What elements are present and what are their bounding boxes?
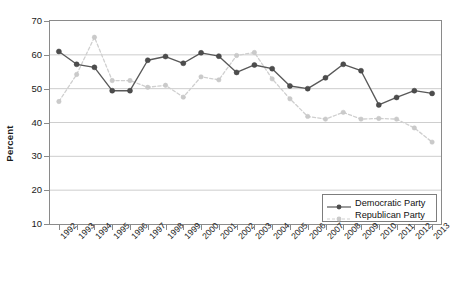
x-axis-tick-labels: 1992199319941995199619971998199920002001… — [0, 0, 455, 286]
x-tick-mark — [237, 225, 238, 230]
x-tick-mark — [148, 225, 149, 230]
y-tick-mark — [44, 89, 49, 90]
x-tick-mark — [112, 225, 113, 230]
y-tick-mark — [44, 21, 49, 22]
y-tick-mark — [44, 123, 49, 124]
x-tick-mark — [94, 225, 95, 230]
x-tick-label: 2009 — [360, 220, 381, 241]
legend-label-democratic-party: Democratic Party — [352, 198, 425, 208]
x-tick-mark — [379, 225, 380, 230]
x-tick-label: 1997 — [147, 220, 168, 241]
legend-key-democratic-icon — [326, 198, 352, 208]
x-tick-label: 2011 — [396, 221, 416, 241]
x-tick-label: 2001 — [218, 220, 239, 241]
legend-item-democratic-party: Democratic Party — [326, 197, 433, 209]
x-tick-mark — [361, 225, 362, 230]
legend-key-republican-icon — [326, 210, 352, 220]
x-tick-label: 1994 — [93, 220, 114, 241]
x-tick-label: 2002 — [236, 220, 257, 241]
x-tick-label: 1993 — [76, 220, 97, 241]
x-tick-label: 2012 — [413, 220, 434, 241]
x-tick-mark — [201, 225, 202, 230]
x-tick-label: 2010 — [378, 220, 399, 241]
x-tick-mark — [432, 225, 433, 230]
x-tick-label: 1999 — [182, 220, 203, 241]
x-tick-mark — [219, 225, 220, 230]
x-tick-mark — [166, 225, 167, 230]
x-tick-mark — [183, 225, 184, 230]
y-tick-mark — [44, 55, 49, 56]
x-tick-mark — [326, 225, 327, 230]
x-tick-label: 2005 — [289, 220, 310, 241]
legend-label-republican-party: Republican Party — [352, 210, 425, 220]
x-tick-label: 2000 — [200, 220, 221, 241]
x-tick-label: 1992 — [58, 220, 79, 241]
x-tick-label: 2006 — [307, 220, 328, 241]
x-tick-mark — [272, 225, 273, 230]
x-tick-label: 1998 — [165, 220, 186, 241]
x-tick-mark — [397, 225, 398, 230]
x-tick-mark — [254, 225, 255, 230]
x-tick-mark — [308, 225, 309, 230]
chart-figure: Percent 70605040302010 19921993199419951… — [0, 0, 455, 286]
x-tick-mark — [59, 225, 60, 230]
legend-item-republican-party: Republican Party — [326, 209, 433, 221]
y-tick-mark — [44, 190, 49, 191]
x-tick-mark — [130, 225, 131, 230]
x-tick-label: 2004 — [271, 220, 292, 241]
y-tick-mark — [44, 224, 49, 225]
chart-legend: Democratic Party Republican Party — [322, 194, 437, 222]
x-tick-label: 2013 — [431, 220, 452, 241]
y-tick-mark — [44, 156, 49, 157]
x-tick-mark — [77, 225, 78, 230]
x-tick-mark — [414, 225, 415, 230]
x-tick-mark — [343, 225, 344, 230]
x-tick-label: 1995 — [111, 220, 132, 241]
x-tick-label: 1996 — [129, 220, 150, 241]
x-tick-label: 2003 — [253, 220, 274, 241]
x-tick-mark — [290, 225, 291, 230]
